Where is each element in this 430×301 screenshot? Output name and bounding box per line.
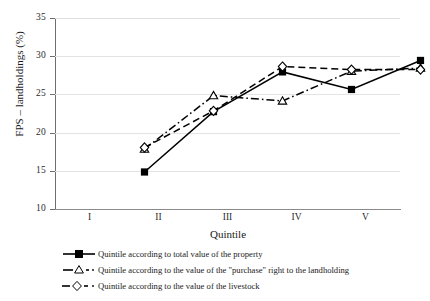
x-axis-title: Quintile [55, 228, 401, 240]
x-tick-label: V [346, 212, 386, 222]
y-axis-title: FPS – landholdings (%) [13, 0, 25, 179]
legend-item[interactable]: Quintile according to total value of the… [62, 246, 412, 262]
y-tick-mark [50, 171, 55, 172]
y-tick-label: 10 [0, 203, 46, 213]
series-layer [110, 36, 430, 227]
x-tick-label: IV [277, 212, 317, 222]
y-tick-mark [50, 18, 55, 19]
legend-item[interactable]: Quintile according to the value of the l… [62, 278, 412, 294]
legend-label-property: Quintile according to total value of the… [96, 250, 262, 259]
y-tick-mark [50, 94, 55, 95]
x-tick-label: III [208, 212, 248, 222]
data-point-marker [141, 168, 148, 175]
data-point-marker [348, 86, 355, 93]
chart-legend: Quintile according to total value of the… [62, 246, 412, 294]
legend-key-open-diamond-icon [62, 279, 96, 293]
gridline [55, 18, 400, 19]
data-point-marker [416, 65, 424, 74]
y-tick-mark [50, 133, 55, 134]
y-tick-mark [50, 209, 55, 210]
legend-key-filled-square-icon [62, 247, 96, 261]
x-tick-label: II [139, 212, 179, 222]
legend-label-livestock: Quintile according to the value of the l… [96, 282, 260, 291]
legend-label-purchase-right: Quintile according to the value of the "… [96, 266, 349, 275]
x-tick-label: I [70, 212, 110, 222]
y-tick-mark [50, 56, 55, 57]
plot-area [55, 18, 400, 209]
series-line [145, 68, 421, 149]
legend-key-open-triangle-icon [62, 263, 96, 277]
legend-item[interactable]: Quintile according to the value of the "… [62, 262, 412, 278]
